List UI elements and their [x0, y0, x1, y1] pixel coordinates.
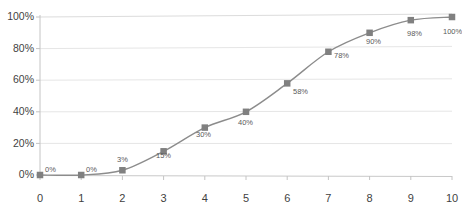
data-point-marker [284, 80, 291, 87]
data-point-marker [243, 109, 250, 116]
data-point-marker [78, 172, 85, 179]
ytick-label-80: 80% [0, 43, 34, 54]
xtick-label-7: 7 [318, 193, 338, 204]
point-label-2: 3% [117, 156, 128, 164]
point-label-0: 0% [45, 166, 56, 174]
axes [40, 15, 452, 177]
ytick-label-60: 60% [0, 74, 34, 85]
xtick-label-1: 1 [71, 193, 91, 204]
xtick-label-8: 8 [360, 193, 380, 204]
point-label-9: 98% [407, 30, 422, 38]
ytick-label-100: 100% [0, 11, 34, 22]
gridline-80 [40, 46, 452, 48]
point-label-10: 100% [443, 28, 462, 36]
series-line [40, 17, 452, 175]
gridline-100 [40, 14, 452, 17]
point-label-3: 15% [156, 152, 171, 160]
gridline-60 [40, 79, 452, 80]
data-point-marker [449, 14, 456, 21]
data-point-marker [325, 49, 332, 56]
data-point-marker [119, 167, 126, 174]
point-label-8: 90% [366, 38, 381, 46]
xtick-label-9: 9 [401, 193, 421, 204]
data-point-marker [408, 17, 415, 24]
xtick-label-4: 4 [195, 193, 215, 204]
point-label-6: 58% [293, 88, 308, 96]
xtick-label-5: 5 [236, 193, 256, 204]
data-point-marker [366, 30, 373, 37]
data-point-marker [37, 172, 44, 179]
point-label-5: 40% [238, 119, 253, 127]
point-label-4: 30% [196, 131, 211, 139]
series-markers [37, 14, 456, 179]
xtick-label-10: 10 [442, 193, 462, 204]
ytick-label-0: 0% [0, 169, 34, 180]
xtick-label-6: 6 [277, 193, 297, 204]
xtick-label-0: 0 [30, 193, 50, 204]
xtick-label-3: 3 [154, 193, 174, 204]
point-label-7: 78% [334, 52, 349, 60]
ytick-label-20: 20% [0, 138, 34, 149]
point-label-1: 0% [86, 166, 97, 174]
xtick-label-2: 2 [112, 193, 132, 204]
ytick-label-40: 40% [0, 106, 34, 117]
y-axis-ticks [36, 17, 40, 175]
